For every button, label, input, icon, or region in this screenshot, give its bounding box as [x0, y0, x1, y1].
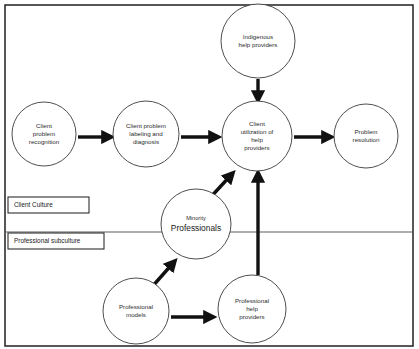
professional-help-providers-node-label-line-0: Professional [235, 297, 269, 304]
client-utilization-node[interactable]: Clientutilization ofhelpproviders [222, 101, 292, 171]
client-problem-labeling-node-label-line-1: labeling and [129, 130, 163, 137]
problem-resolution-node-label-line-0: Problem [354, 128, 377, 135]
professional-models-node[interactable]: Professionalmodels [103, 278, 169, 344]
client-culture-tag: Client Culture [8, 197, 89, 213]
indigenous-help-providers-node[interactable]: Indigenoushelp providers [221, 4, 295, 78]
professional-subculture-tag-text: Professional subculture [14, 237, 81, 244]
client-utilization-node-label-line-3: providers [244, 144, 269, 151]
client-problem-recognition-node[interactable]: Clientproblemrecognition [12, 102, 76, 166]
outer-frame-rect [5, 5, 413, 346]
client-problem-recognition-node-label-line-2: recognition [29, 138, 60, 145]
problem-resolution-node-label-line-1: resolution [353, 136, 380, 143]
client-utilization-node-label-line-2: help [251, 136, 263, 143]
minority-professionals-node-label-line-1: Professionals [171, 223, 221, 233]
client-utilization-node-label-line-1: utilization of [241, 128, 274, 135]
indigenous-help-providers-node-label-line-1: help providers [239, 41, 278, 48]
professional-help-providers-node[interactable]: Professionalhelpproviders [218, 275, 286, 343]
client-culture-tag-text: Client Culture [14, 201, 53, 208]
client-problem-labeling-node-label-line-0: Client problem [126, 122, 166, 129]
client-problem-recognition-node-label-line-1: problem [33, 130, 55, 137]
outer-frame [5, 5, 413, 346]
professional-models-node-label-line-1: models [126, 311, 146, 318]
diagram-svg: Indigenoushelp providersClientproblemrec… [0, 0, 419, 349]
minority-professionals-node-label-line-0: Minority [186, 215, 206, 221]
tag-layer: Client CultureProfessional subculture [8, 197, 104, 249]
indigenous-help-providers-node-label-line-0: Indigenous [243, 33, 273, 40]
professional-models-node-label-line-0: Professional [119, 303, 153, 310]
professional-help-providers-node-label-line-2: providers [239, 313, 264, 320]
client-problem-labeling-node-label-line-2: diagnosis [133, 138, 159, 145]
client-problem-labeling-node[interactable]: Client problemlabeling anddiagnosis [113, 101, 179, 167]
minority-professionals-node[interactable]: MinorityProfessionals [161, 189, 231, 259]
client-problem-recognition-node-label-line-0: Client [36, 122, 52, 129]
problem-resolution-node[interactable]: Problemresolution [334, 104, 398, 168]
professional-help-providers-node-label-line-1: help [246, 305, 258, 312]
node-layer: Indigenoushelp providersClientproblemrec… [12, 4, 398, 344]
diagram-canvas: Indigenoushelp providersClientproblemrec… [0, 0, 419, 349]
client-utilization-node-label-line-0: Client [249, 120, 265, 127]
professional-subculture-tag: Professional subculture [8, 233, 104, 249]
